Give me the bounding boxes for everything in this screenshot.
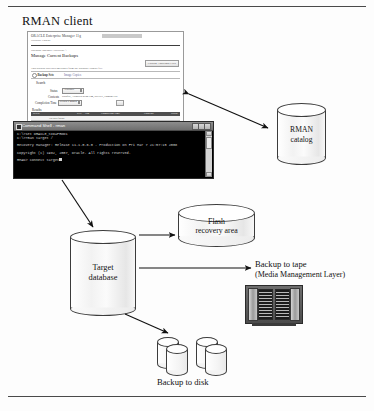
arrow-shell-to-target: [62, 180, 93, 227]
rman-catalog-label: RMAN catalog: [277, 125, 326, 144]
arrow-oem-to-catalog: [189, 94, 268, 128]
flash-label-line2: recovery area: [178, 226, 255, 235]
figure-canvas: RMAN client ORACLE Enterprise Manager 11…: [0, 0, 374, 411]
rman-catalog-label-line2: catalog: [277, 134, 326, 144]
connector-arrows: RMAN catalog (double headed) -->: [0, 0, 374, 411]
arrow-target-to-disk: [125, 314, 168, 333]
target-database-label-line2: database: [70, 273, 136, 283]
rman-catalog-label-line1: RMAN: [277, 125, 326, 135]
target-database-label: Target database: [70, 263, 136, 283]
flash-label-line1: Flash: [178, 217, 255, 226]
target-database-label-line1: Target: [70, 263, 136, 273]
flash-recovery-area-label: Flash recovery area: [178, 217, 255, 235]
